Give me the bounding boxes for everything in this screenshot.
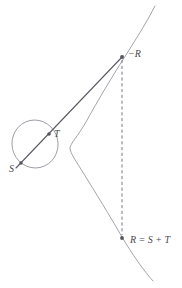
label-point-t: T xyxy=(54,128,61,139)
curve-oval-branch xyxy=(8,116,63,173)
point-marker-s xyxy=(19,161,22,164)
figure-canvas: S T −R R = S + T xyxy=(0,0,182,288)
point-marker-minus-r xyxy=(120,55,124,59)
elliptic-curve-diagram: S T −R R = S + T xyxy=(0,0,182,288)
label-point-s: S xyxy=(9,163,14,174)
point-marker-t xyxy=(47,132,51,136)
label-point-minus-r: −R xyxy=(128,48,141,59)
secant-line-s-t-minus-r xyxy=(16,56,123,168)
label-point-r: R = S + T xyxy=(129,234,172,245)
point-marker-r xyxy=(120,236,124,240)
